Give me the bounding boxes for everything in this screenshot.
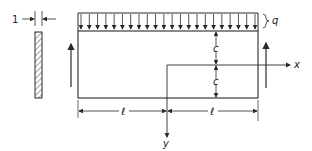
span-left-label: ℓ bbox=[121, 106, 125, 117]
span-right-label: ℓ bbox=[210, 106, 214, 117]
beam-diagram: 1 q x y c c ℓ ℓ bbox=[0, 0, 312, 151]
c-top-label: c bbox=[213, 43, 219, 54]
beam bbox=[78, 31, 258, 98]
load-label: q bbox=[272, 15, 278, 26]
x-axis-label: x bbox=[293, 59, 300, 70]
distributed-load: q bbox=[78, 13, 278, 31]
y-axis-label: y bbox=[162, 138, 170, 149]
span-dimensions: ℓ ℓ bbox=[78, 100, 258, 121]
thickness-label: 1 bbox=[12, 14, 18, 25]
cross-section: 1 bbox=[12, 11, 56, 98]
c-bottom-label: c bbox=[213, 76, 219, 87]
depth-dimensions: c c bbox=[213, 32, 219, 97]
